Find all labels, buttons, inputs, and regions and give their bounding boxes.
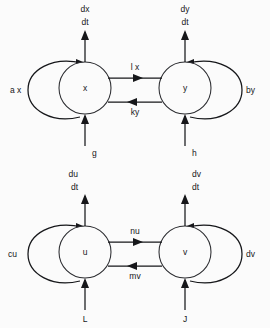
coupling-label-ky: ky bbox=[131, 107, 140, 117]
output-label-du: du bbox=[69, 169, 79, 179]
output-label-dt-v: dt bbox=[192, 182, 200, 192]
diagram-upper: a x by x y l x ky dx dt dy dt g bbox=[10, 4, 256, 158]
coupling-label-nu: nu bbox=[130, 226, 140, 236]
self-loop-label-dv: dv bbox=[246, 249, 256, 259]
input-arrowhead-h bbox=[181, 114, 189, 124]
output-arrowhead-v bbox=[181, 194, 189, 204]
self-loop-label-cu: cu bbox=[8, 249, 17, 259]
coupling-arrowhead-v-to-u bbox=[127, 262, 137, 270]
input-arrowhead-J bbox=[181, 278, 189, 288]
node-label-u: u bbox=[83, 247, 88, 257]
coupling-label-lx: l x bbox=[131, 62, 140, 72]
output-label-dv-top: dv bbox=[192, 169, 202, 179]
output-arrowhead-u bbox=[81, 194, 89, 204]
diagram-lower: cu dv u v nu mv du dt dv dt L bbox=[8, 169, 256, 324]
self-loop-label-by: by bbox=[246, 85, 256, 95]
output-label-dy: dy bbox=[181, 4, 191, 14]
coupling-arrowhead-y-to-x bbox=[127, 98, 137, 106]
coupling-arrowhead-u-to-v bbox=[133, 238, 143, 246]
input-label-h: h bbox=[192, 148, 197, 158]
output-label-dt-u: dt bbox=[71, 182, 79, 192]
diagram-canvas: a x by x y l x ky dx dt dy dt g bbox=[0, 0, 270, 328]
output-arrowhead-x bbox=[81, 30, 89, 40]
flow-diagram-svg: a x by x y l x ky dx dt dy dt g bbox=[0, 0, 270, 328]
output-arrowhead-y bbox=[181, 30, 189, 40]
input-label-g: g bbox=[92, 148, 97, 158]
output-label-dt-x: dt bbox=[81, 17, 89, 27]
input-arrowhead-g bbox=[81, 114, 89, 124]
coupling-label-mv: mv bbox=[129, 271, 141, 281]
output-label-dx: dx bbox=[81, 4, 91, 14]
input-label-L: L bbox=[83, 314, 88, 324]
input-arrowhead-L bbox=[81, 278, 89, 288]
input-label-J: J bbox=[183, 314, 187, 324]
output-label-dt-y: dt bbox=[181, 17, 189, 27]
self-loop-label-ax: a x bbox=[10, 85, 22, 95]
coupling-arrowhead-x-to-y bbox=[133, 74, 143, 82]
